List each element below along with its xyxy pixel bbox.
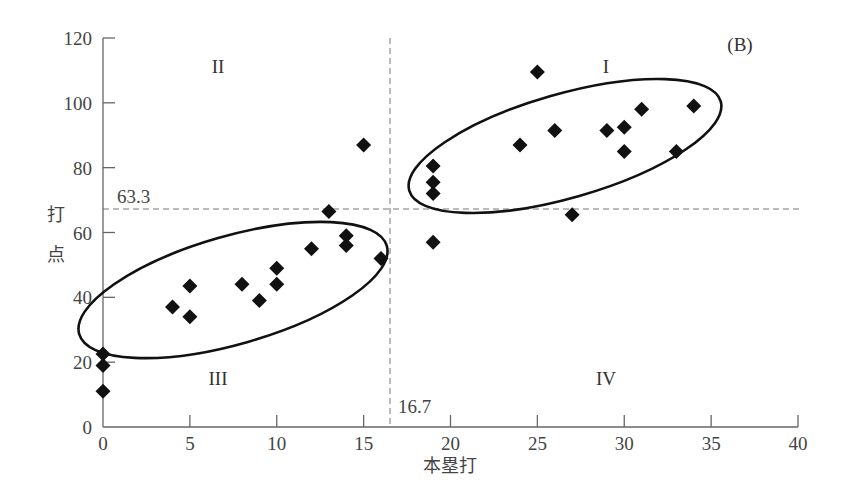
data-point-diamond xyxy=(617,120,632,135)
scatter-chart: 0204060801001200510152025303540 (B) 63.3… xyxy=(0,0,845,497)
y-axis-title-char-1: 打 xyxy=(47,204,65,225)
data-point-diamond xyxy=(356,137,371,152)
quadrant-label-II: II xyxy=(212,56,225,77)
data-point-diamond xyxy=(182,278,197,293)
data-point-diamond xyxy=(599,123,614,138)
cluster-ellipses xyxy=(64,51,735,386)
data-point-diamond xyxy=(634,102,649,117)
data-point-diamond xyxy=(530,65,545,80)
data-point-diamond xyxy=(617,144,632,159)
data-point-diamond xyxy=(547,123,562,138)
y-axis-title-char-2: 点 xyxy=(47,244,65,265)
quadrant-label-IV: IV xyxy=(596,368,616,389)
horizontal-reference-label: 63.3 xyxy=(117,186,150,207)
cluster-ellipse-III xyxy=(64,194,401,386)
data-point-diamond xyxy=(269,261,284,276)
quadrant-label-III: III xyxy=(209,368,228,389)
y-tick-label: 120 xyxy=(64,28,93,49)
data-point-diamond xyxy=(686,99,701,114)
data-point-diamond xyxy=(339,238,354,253)
y-tick-label: 60 xyxy=(73,223,92,244)
vertical-reference-label: 16.7 xyxy=(398,396,431,417)
data-point-diamond xyxy=(165,300,180,315)
data-point-diamond xyxy=(96,358,111,373)
data-point-diamond xyxy=(513,137,528,152)
y-tick-label: 20 xyxy=(73,352,92,373)
x-tick-label: 35 xyxy=(702,433,721,454)
data-point-diamond xyxy=(252,293,267,308)
chart-labels: (B) 63.3 16.7 I II III IV 本塁打 打 点 xyxy=(47,34,753,476)
data-point-diamond xyxy=(269,277,284,292)
x-tick-label: 5 xyxy=(185,433,195,454)
x-tick-label: 40 xyxy=(789,433,808,454)
x-tick-label: 20 xyxy=(441,433,460,454)
data-point-diamond xyxy=(426,235,441,250)
data-point-diamond xyxy=(669,144,684,159)
data-point-diamond xyxy=(96,384,111,399)
x-tick-label: 10 xyxy=(267,433,286,454)
x-axis-title: 本塁打 xyxy=(423,455,477,476)
y-tick-label: 100 xyxy=(64,93,93,114)
x-tick-label: 15 xyxy=(354,433,373,454)
x-tick-label: 30 xyxy=(615,433,634,454)
data-point-diamond xyxy=(426,159,441,174)
y-tick-label: 80 xyxy=(73,158,92,179)
data-point-diamond xyxy=(426,186,441,201)
data-point-diamond xyxy=(321,204,336,219)
data-point-diamond xyxy=(235,277,250,292)
y-tick-label: 0 xyxy=(83,417,93,438)
cluster-ellipse-I xyxy=(395,51,735,240)
panel-label: (B) xyxy=(727,34,752,56)
data-point-diamond xyxy=(182,309,197,324)
data-point-diamond xyxy=(304,241,319,256)
quadrant-label-I: I xyxy=(603,56,609,77)
data-points xyxy=(96,65,702,399)
x-tick-label: 0 xyxy=(98,433,108,454)
x-tick-label: 25 xyxy=(528,433,547,454)
